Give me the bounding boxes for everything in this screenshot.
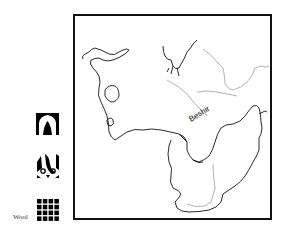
- map-canvas: Beshir: [75, 16, 274, 222]
- wool-grid-icon: [37, 199, 59, 221]
- bird-motif-icon: [37, 154, 59, 178]
- arch-motif-icon: [36, 113, 59, 135]
- river-label-beshir: Beshir: [187, 104, 211, 124]
- river-lines: [167, 49, 269, 207]
- border-lines: [82, 40, 267, 212]
- map-frame: Beshir: [73, 14, 272, 220]
- wool-label: Wool: [13, 213, 28, 221]
